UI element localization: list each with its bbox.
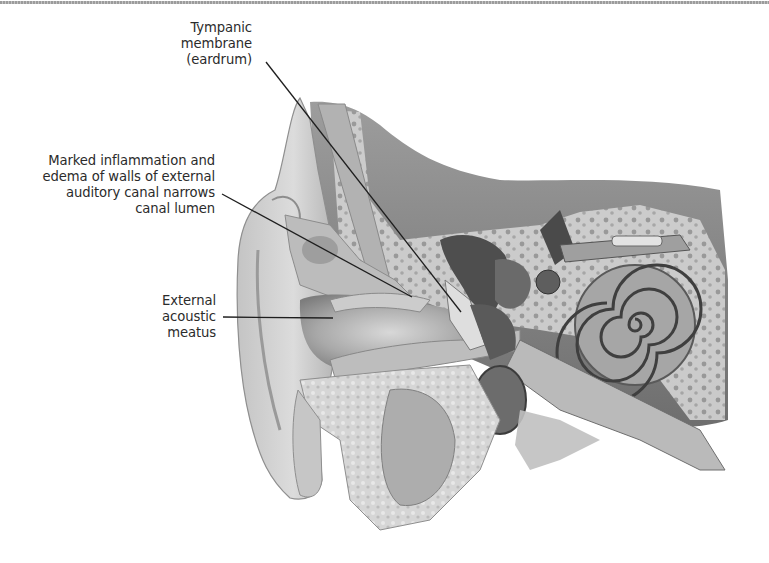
- label-line: Marked inflammation and: [43, 153, 215, 169]
- ear-illustration: [0, 0, 769, 563]
- label-line: canal lumen: [43, 201, 215, 217]
- label-line: acoustic: [162, 309, 216, 325]
- label-tympanic-membrane: Tympanic membrane (eardrum): [181, 20, 252, 68]
- label-canal-inflammation: Marked inflammation and edema of walls o…: [43, 153, 215, 217]
- label-external-acoustic-meatus: External acoustic meatus: [162, 293, 216, 341]
- label-line: auditory canal narrows: [43, 185, 215, 201]
- label-line: edema of walls of external: [43, 169, 215, 185]
- label-line: External: [162, 293, 216, 309]
- label-line: membrane: [181, 36, 252, 52]
- label-line: meatus: [162, 325, 216, 341]
- label-line: (eardrum): [181, 52, 252, 68]
- label-line: Tympanic: [181, 20, 252, 36]
